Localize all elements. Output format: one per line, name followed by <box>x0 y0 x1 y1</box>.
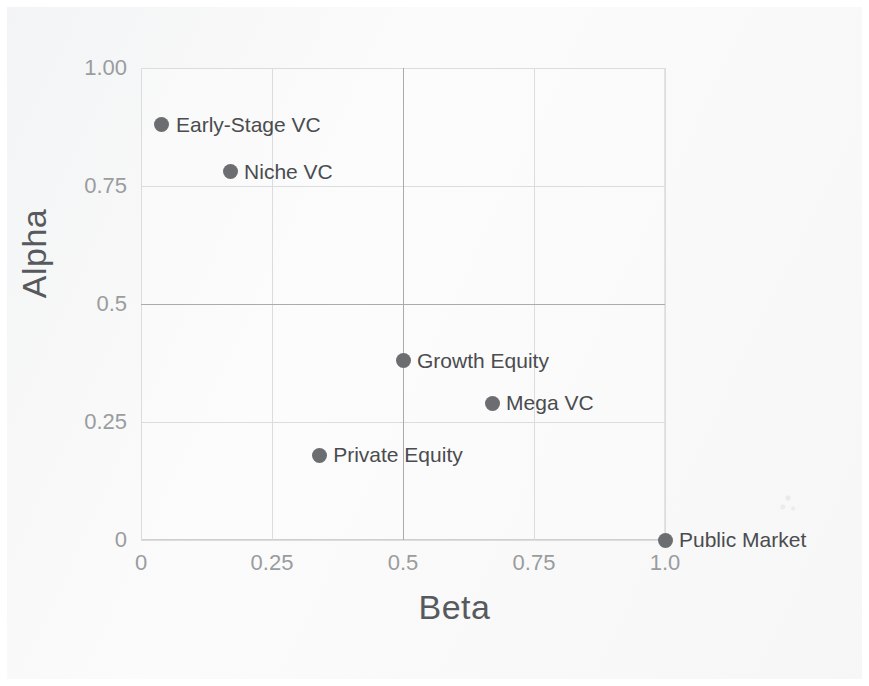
data-point-label: Public Market <box>679 527 806 553</box>
x-tick-label: 0.75 <box>513 550 556 576</box>
x-tick-label: 0.5 <box>388 550 419 576</box>
x-tick-label: 0.25 <box>251 550 294 576</box>
plot-area: Early-Stage VCNiche VCGrowth EquityMega … <box>141 68 665 540</box>
gridline-vertical <box>665 68 666 540</box>
y-tick-label: 0 <box>31 527 127 553</box>
data-point[interactable] <box>396 353 411 368</box>
data-point-label: Private Equity <box>333 442 463 468</box>
quadrant-line-horizontal <box>141 304 665 305</box>
data-point[interactable] <box>312 448 327 463</box>
data-point[interactable] <box>223 164 238 179</box>
data-point[interactable] <box>154 117 169 132</box>
y-tick-label: 0.75 <box>31 173 127 199</box>
data-point-label: Mega VC <box>506 390 594 416</box>
y-tick-label: 0.25 <box>31 409 127 435</box>
x-axis-title-text: Beta <box>379 588 491 626</box>
data-point[interactable] <box>658 533 673 548</box>
x-axis-title: Beta <box>0 588 869 627</box>
data-point-label: Growth Equity <box>417 348 549 374</box>
y-tick-label: 1.00 <box>31 55 127 81</box>
scatter-plot-figure: Alpha Early-Stage VCNiche VCGrowth Equit… <box>0 0 869 686</box>
x-tick-label: 1.0 <box>650 550 681 576</box>
y-tick-label: 0.5 <box>31 291 127 317</box>
x-tick-label: 0 <box>135 550 147 576</box>
scan-watermark-artifact <box>775 486 801 516</box>
data-point-label: Niche VC <box>244 159 333 185</box>
gridline-horizontal <box>141 540 665 541</box>
data-point[interactable] <box>485 396 500 411</box>
data-point-label: Early-Stage VC <box>176 112 321 138</box>
